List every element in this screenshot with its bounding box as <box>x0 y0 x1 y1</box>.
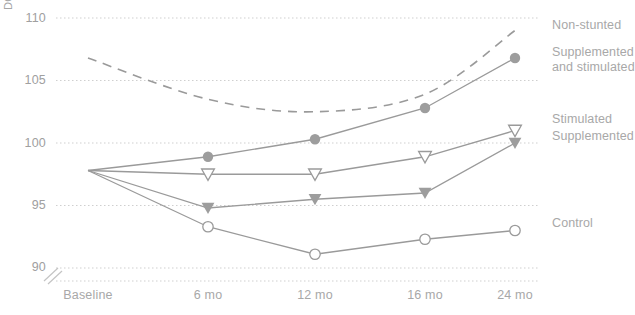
data-point-stimulated-24-mo <box>509 125 522 136</box>
data-point-supplemented-24-mo <box>509 138 522 149</box>
data-point-supplemented-and-stimulated-16-mo <box>420 103 430 113</box>
series-line-non-stunted <box>88 31 515 112</box>
data-point-supplemented-and-stimulated-6-mo <box>203 152 213 162</box>
data-point-control-16-mo <box>420 234 430 244</box>
data-point-supplemented-and-stimulated-24-mo <box>510 53 520 63</box>
data-point-supplemented-and-stimulated-12-mo <box>310 134 320 144</box>
axis-break-icon <box>44 268 62 284</box>
series-line-supplemented-and-stimulated <box>88 58 515 171</box>
data-point-control-12-mo <box>310 249 320 259</box>
gridlines-group <box>56 18 540 281</box>
data-point-supplemented-6-mo <box>202 203 215 214</box>
data-point-control-24-mo <box>510 225 520 235</box>
series-lines-group <box>88 31 515 255</box>
series-line-stimulated <box>88 131 515 175</box>
data-point-control-6-mo <box>203 222 213 232</box>
series-markers-group <box>202 53 522 260</box>
series-line-supplemented <box>88 143 515 208</box>
series-line-control <box>88 171 515 255</box>
